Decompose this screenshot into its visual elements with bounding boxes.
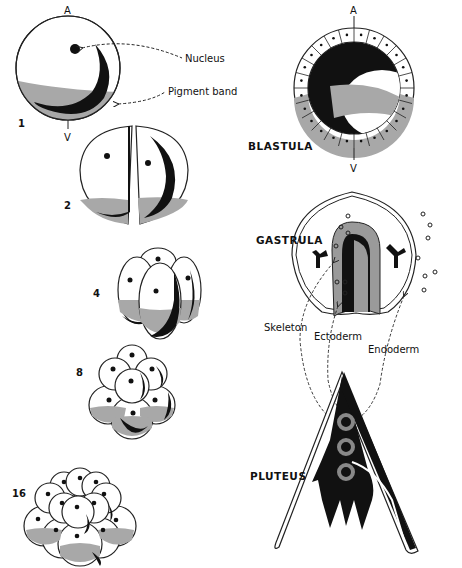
nucleus-label: Nucleus (185, 53, 225, 64)
animal-pole-label: A (64, 5, 71, 16)
stage-1-egg: A V 1 Nucleus Pigment band (14, 5, 237, 143)
blastula-stage: A (248, 5, 422, 174)
embryo-development-diagram: A V 1 Nucleus Pigment band 2 4 (0, 0, 462, 568)
vegetal-pole-label: V (64, 132, 71, 143)
pluteus-stage: PLUTEUS (250, 372, 418, 553)
gastrula-label: GASTRULA (256, 234, 323, 246)
stage-number: 2 (64, 200, 71, 211)
nucleus-dot (70, 44, 80, 54)
ectoderm-label: Ectoderm (314, 331, 362, 342)
blastula-label: BLASTULA (248, 140, 313, 152)
stage-8-cells: 8 (76, 345, 175, 439)
stage-4-cells: 4 (93, 248, 201, 339)
skeleton-label: Skeleton (264, 322, 307, 333)
endoderm-label: Endoderm (368, 344, 419, 355)
stage-number: 4 (93, 288, 100, 299)
stage-16-cells: 16 (12, 468, 136, 566)
stage-number: 16 (12, 488, 26, 499)
stage-number: 1 (18, 118, 25, 129)
pluteus-label: PLUTEUS (250, 470, 306, 482)
animal-pole-label: A (350, 5, 357, 16)
vegetal-pole-label: V (350, 163, 357, 174)
stage-2-cells: 2 (64, 126, 188, 224)
stage-number: 8 (76, 367, 83, 378)
pigment-band-label: Pigment band (168, 86, 237, 97)
